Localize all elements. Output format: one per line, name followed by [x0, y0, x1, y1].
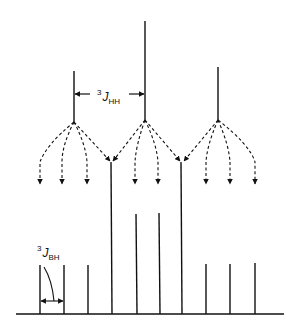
- peak-5: [136, 214, 137, 314]
- bottom-multiplet: [40, 162, 255, 314]
- peak-7: [181, 162, 182, 314]
- peak-6: [159, 213, 160, 314]
- splitting-diagram: 3JHH 3JBH: [0, 0, 298, 334]
- top-triplet: [74, 21, 218, 122]
- jbh-label: 3JBH: [37, 244, 60, 262]
- jbh-spacing-arrows: [41, 267, 63, 301]
- peak-4: [111, 162, 112, 314]
- splitting-arrows: [40, 120, 255, 184]
- jhh-label: 3JHH: [97, 88, 120, 106]
